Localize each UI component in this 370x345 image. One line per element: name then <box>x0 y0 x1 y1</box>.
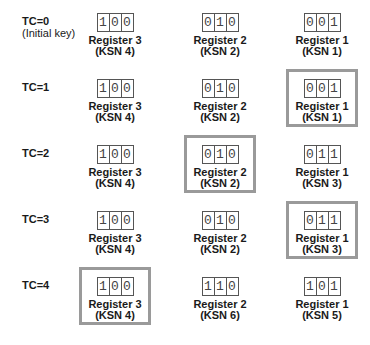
bit-box: 1 <box>98 278 110 295</box>
register-cell: 010Register 2(KSN 2) <box>180 12 260 57</box>
bit-box: 0 <box>227 212 238 229</box>
bit-box: 0 <box>110 212 122 229</box>
tc-label: TC=0 <box>22 15 49 27</box>
register-bits: 100 <box>97 145 134 164</box>
bit-box: 1 <box>305 278 317 295</box>
register-bits: 100 <box>97 211 134 230</box>
row-label-tc-0: TC=0(Initial key) <box>22 15 75 39</box>
register-ksn: (KSN 4) <box>75 112 155 123</box>
register-ksn: (KSN 3) <box>282 178 362 189</box>
register-cell: 100Register 3(KSN 4) <box>75 276 155 321</box>
tc-sublabel: (Initial key) <box>22 27 75 39</box>
register-cell: 100Register 3(KSN 4) <box>75 144 155 189</box>
register-ksn: (KSN 2) <box>180 178 260 189</box>
bit-box: 0 <box>203 212 215 229</box>
bit-box: 0 <box>305 212 317 229</box>
bit-box: 0 <box>305 146 317 163</box>
bit-box: 1 <box>317 146 329 163</box>
bit-box: 1 <box>215 278 227 295</box>
tc-label: TC=4 <box>22 279 49 291</box>
bit-box: 0 <box>305 80 317 97</box>
row-label-tc-2: TC=2 <box>22 147 49 159</box>
register-bits: 010 <box>202 79 239 98</box>
bit-box: 0 <box>227 278 238 295</box>
bit-box: 0 <box>227 14 238 31</box>
register-ksn: (KSN 4) <box>75 310 155 321</box>
bit-box: 1 <box>317 212 329 229</box>
register-cell: 100Register 3(KSN 4) <box>75 210 155 255</box>
bit-box: 0 <box>110 146 122 163</box>
register-cell: 010Register 2(KSN 2) <box>180 78 260 123</box>
tc-label: TC=2 <box>22 147 49 159</box>
bit-box: 1 <box>98 80 110 97</box>
register-bits: 110 <box>202 277 239 296</box>
row-label-tc-1: TC=1 <box>22 81 49 93</box>
register-ksn: (KSN 4) <box>75 178 155 189</box>
bit-box: 1 <box>215 14 227 31</box>
register-bits: 100 <box>97 13 134 32</box>
bit-box: 0 <box>110 80 122 97</box>
register-bits: 010 <box>202 13 239 32</box>
register-bits: 011 <box>304 211 341 230</box>
bit-box: 0 <box>203 80 215 97</box>
bit-box: 1 <box>215 212 227 229</box>
register-cell: 101Register 1(KSN 5) <box>282 276 362 321</box>
tc-label: TC=3 <box>22 213 49 225</box>
register-ksn: (KSN 6) <box>180 310 260 321</box>
register-bits: 010 <box>202 145 239 164</box>
register-bits: 100 <box>97 277 134 296</box>
register-cell: 100Register 3(KSN 4) <box>75 78 155 123</box>
row-label-tc-4: TC=4 <box>22 279 49 291</box>
bit-box: 1 <box>215 146 227 163</box>
register-ksn: (KSN 2) <box>180 112 260 123</box>
bit-box: 0 <box>227 146 238 163</box>
bit-box: 1 <box>98 14 110 31</box>
register-cell: 100Register 3(KSN 4) <box>75 12 155 57</box>
register-cell: 010Register 2(KSN 2) <box>180 144 260 189</box>
register-cell: 110Register 2(KSN 6) <box>180 276 260 321</box>
register-cell: 001Register 1(KSN 1) <box>282 12 362 57</box>
tc-label: TC=1 <box>22 81 49 93</box>
bit-box: 0 <box>317 278 329 295</box>
register-ksn: (KSN 5) <box>282 310 362 321</box>
register-cell: 011Register 1(KSN 3) <box>282 144 362 189</box>
bit-box: 0 <box>122 278 133 295</box>
register-cell: 010Register 2(KSN 2) <box>180 210 260 255</box>
bit-box: 1 <box>329 14 340 31</box>
row-label-tc-3: TC=3 <box>22 213 49 225</box>
register-cell: 011Register 1(KSN 3) <box>282 210 362 255</box>
bit-box: 1 <box>329 80 340 97</box>
bit-box: 0 <box>317 14 329 31</box>
register-bits: 010 <box>202 211 239 230</box>
register-ksn: (KSN 4) <box>75 244 155 255</box>
bit-box: 1 <box>329 212 340 229</box>
bit-box: 0 <box>122 80 133 97</box>
register-ksn: (KSN 1) <box>282 112 362 123</box>
bit-box: 1 <box>98 146 110 163</box>
bit-box: 0 <box>122 14 133 31</box>
bit-box: 0 <box>122 212 133 229</box>
bit-box: 0 <box>305 14 317 31</box>
register-bits: 001 <box>304 13 341 32</box>
register-ksn: (KSN 2) <box>180 46 260 57</box>
bit-box: 1 <box>203 278 215 295</box>
bit-box: 0 <box>122 146 133 163</box>
register-cell: 001Register 1(KSN 1) <box>282 78 362 123</box>
register-ksn: (KSN 1) <box>282 46 362 57</box>
register-bits: 100 <box>97 79 134 98</box>
bit-box: 0 <box>110 278 122 295</box>
bit-box: 1 <box>215 80 227 97</box>
bit-box: 0 <box>203 14 215 31</box>
register-bits: 101 <box>304 277 341 296</box>
register-bits: 011 <box>304 145 341 164</box>
register-ksn: (KSN 4) <box>75 46 155 57</box>
bit-box: 0 <box>227 80 238 97</box>
register-bits: 001 <box>304 79 341 98</box>
bit-box: 0 <box>317 80 329 97</box>
register-ksn: (KSN 3) <box>282 244 362 255</box>
bit-box: 1 <box>98 212 110 229</box>
bit-box: 0 <box>110 14 122 31</box>
bit-box: 1 <box>329 278 340 295</box>
register-ksn: (KSN 2) <box>180 244 260 255</box>
bit-box: 0 <box>203 146 215 163</box>
